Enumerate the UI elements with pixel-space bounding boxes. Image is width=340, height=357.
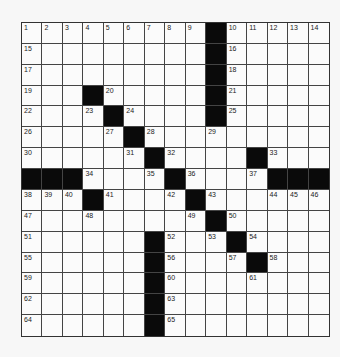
answer-cell[interactable]	[145, 44, 165, 65]
answer-cell[interactable]: 3	[63, 23, 83, 44]
answer-cell[interactable]: 58	[268, 253, 288, 274]
answer-cell[interactable]: 20	[104, 86, 124, 107]
answer-cell[interactable]: 19	[22, 86, 42, 107]
answer-cell[interactable]	[104, 253, 124, 274]
answer-cell[interactable]: 21	[227, 86, 247, 107]
answer-cell[interactable]: 32	[165, 148, 185, 169]
answer-cell[interactable]: 2	[42, 23, 62, 44]
answer-cell[interactable]	[227, 315, 247, 336]
answer-cell[interactable]	[42, 65, 62, 86]
answer-cell[interactable]	[268, 211, 288, 232]
answer-cell[interactable]	[288, 44, 308, 65]
answer-cell[interactable]	[186, 273, 206, 294]
answer-cell[interactable]: 41	[104, 190, 124, 211]
answer-cell[interactable]	[186, 232, 206, 253]
answer-cell[interactable]: 24	[124, 106, 144, 127]
answer-cell[interactable]	[42, 148, 62, 169]
answer-cell[interactable]	[206, 294, 226, 315]
answer-cell[interactable]: 39	[42, 190, 62, 211]
answer-cell[interactable]	[206, 273, 226, 294]
answer-cell[interactable]	[268, 65, 288, 86]
answer-cell[interactable]	[124, 190, 144, 211]
answer-cell[interactable]	[309, 127, 329, 148]
answer-cell[interactable]	[165, 106, 185, 127]
answer-cell[interactable]	[186, 148, 206, 169]
answer-cell[interactable]	[288, 273, 308, 294]
answer-cell[interactable]: 42	[165, 190, 185, 211]
answer-cell[interactable]	[63, 273, 83, 294]
answer-cell[interactable]: 18	[227, 65, 247, 86]
answer-cell[interactable]	[309, 294, 329, 315]
answer-cell[interactable]	[104, 294, 124, 315]
answer-cell[interactable]	[104, 232, 124, 253]
answer-cell[interactable]: 38	[22, 190, 42, 211]
answer-cell[interactable]	[268, 232, 288, 253]
answer-cell[interactable]: 4	[83, 23, 103, 44]
answer-cell[interactable]	[165, 211, 185, 232]
answer-cell[interactable]: 48	[83, 211, 103, 232]
answer-cell[interactable]: 25	[227, 106, 247, 127]
answer-cell[interactable]	[145, 86, 165, 107]
answer-cell[interactable]	[104, 65, 124, 86]
answer-cell[interactable]	[83, 315, 103, 336]
answer-cell[interactable]: 11	[247, 23, 267, 44]
answer-cell[interactable]	[63, 44, 83, 65]
answer-cell[interactable]: 14	[309, 23, 329, 44]
answer-cell[interactable]	[247, 86, 267, 107]
answer-cell[interactable]: 63	[165, 294, 185, 315]
answer-cell[interactable]	[227, 273, 247, 294]
answer-cell[interactable]	[145, 65, 165, 86]
answer-cell[interactable]	[186, 65, 206, 86]
answer-cell[interactable]: 55	[22, 253, 42, 274]
answer-cell[interactable]	[206, 315, 226, 336]
answer-cell[interactable]: 37	[247, 169, 267, 190]
answer-cell[interactable]	[268, 86, 288, 107]
answer-cell[interactable]: 40	[63, 190, 83, 211]
answer-cell[interactable]	[288, 315, 308, 336]
answer-cell[interactable]	[104, 273, 124, 294]
answer-cell[interactable]	[247, 294, 267, 315]
answer-cell[interactable]	[186, 86, 206, 107]
answer-cell[interactable]	[42, 294, 62, 315]
answer-cell[interactable]	[268, 294, 288, 315]
answer-cell[interactable]	[145, 211, 165, 232]
answer-cell[interactable]	[63, 211, 83, 232]
answer-cell[interactable]	[309, 273, 329, 294]
answer-cell[interactable]: 9	[186, 23, 206, 44]
answer-cell[interactable]	[124, 232, 144, 253]
answer-cell[interactable]	[186, 127, 206, 148]
answer-cell[interactable]	[124, 211, 144, 232]
answer-cell[interactable]	[124, 86, 144, 107]
answer-cell[interactable]	[124, 294, 144, 315]
answer-cell[interactable]	[288, 148, 308, 169]
answer-cell[interactable]	[165, 86, 185, 107]
answer-cell[interactable]: 12	[268, 23, 288, 44]
answer-cell[interactable]: 52	[165, 232, 185, 253]
answer-cell[interactable]: 10	[227, 23, 247, 44]
answer-cell[interactable]	[63, 294, 83, 315]
answer-cell[interactable]	[42, 106, 62, 127]
answer-cell[interactable]	[309, 148, 329, 169]
answer-cell[interactable]	[83, 232, 103, 253]
answer-cell[interactable]: 30	[22, 148, 42, 169]
answer-cell[interactable]	[268, 106, 288, 127]
answer-cell[interactable]	[124, 65, 144, 86]
answer-cell[interactable]	[268, 44, 288, 65]
answer-cell[interactable]: 35	[145, 169, 165, 190]
answer-cell[interactable]	[63, 253, 83, 274]
answer-cell[interactable]: 16	[227, 44, 247, 65]
answer-cell[interactable]	[227, 127, 247, 148]
answer-cell[interactable]	[104, 148, 124, 169]
answer-cell[interactable]: 65	[165, 315, 185, 336]
answer-cell[interactable]	[83, 148, 103, 169]
answer-cell[interactable]	[247, 127, 267, 148]
answer-cell[interactable]: 15	[22, 44, 42, 65]
answer-cell[interactable]	[165, 127, 185, 148]
answer-cell[interactable]	[247, 315, 267, 336]
answer-cell[interactable]	[42, 127, 62, 148]
answer-cell[interactable]: 28	[145, 127, 165, 148]
answer-cell[interactable]	[104, 315, 124, 336]
answer-cell[interactable]: 31	[124, 148, 144, 169]
answer-cell[interactable]	[247, 65, 267, 86]
answer-cell[interactable]	[247, 211, 267, 232]
